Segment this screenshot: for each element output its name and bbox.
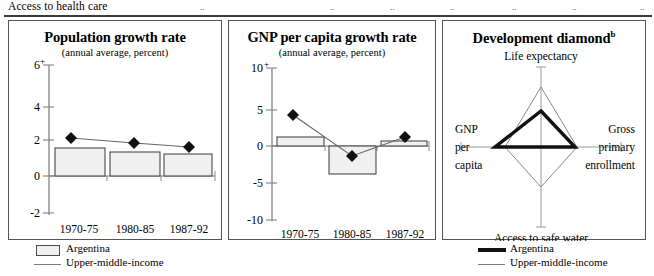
svg-text:-2: -2 xyxy=(30,206,40,220)
svg-text:GNP: GNP xyxy=(455,123,478,135)
legend-swatch-thin-line-icon xyxy=(478,264,505,265)
chart-panel-development-diamond: Development diamondb Life expectancy Acc… xyxy=(442,20,646,240)
svg-text:1987-92: 1987-92 xyxy=(170,223,209,235)
svg-text:Access to safe water: Access to safe water xyxy=(494,232,588,241)
svg-text:per: per xyxy=(455,141,470,154)
legend-label: Argentina xyxy=(66,242,110,254)
gnp-growth-plot: 10 + 5 0 -5 -10 1970-75 1980-85 1987-92 xyxy=(229,21,437,241)
svg-text:enrollment: enrollment xyxy=(585,159,636,171)
chart-panel-gnp-per-capita-growth-rate: GNP per capita growth rate (annual avera… xyxy=(228,20,436,240)
svg-text:primary: primary xyxy=(599,141,636,154)
svg-text:+: + xyxy=(40,56,45,66)
svg-text:Gross: Gross xyxy=(608,123,635,135)
population-growth-plot: 6 + 4 2 0 -2 1970-75 1980-85 1987-92 xyxy=(9,21,223,241)
table-cell-value: .. xyxy=(640,2,645,12)
table-cell-value: .. xyxy=(572,2,577,12)
legend-label: Argentina xyxy=(510,242,554,254)
svg-text:-10: -10 xyxy=(247,213,263,227)
svg-text:1980-85: 1980-85 xyxy=(333,228,372,240)
legend-swatch-thin-line-icon xyxy=(34,264,61,265)
table-horizontal-rule xyxy=(4,15,652,17)
svg-text:5: 5 xyxy=(257,103,263,117)
legend-label: Upper-middle-income xyxy=(510,256,608,268)
development-diamond-plot: Life expectancy Access to safe water GNP… xyxy=(443,21,647,241)
svg-text:-5: -5 xyxy=(253,176,263,190)
svg-text:0: 0 xyxy=(257,139,263,153)
table-cell-value: .. xyxy=(200,2,205,12)
svg-text:4: 4 xyxy=(34,100,40,114)
table-cell-value: .. xyxy=(512,2,517,12)
svg-text:1970-75: 1970-75 xyxy=(281,228,320,240)
table-cell-value: .. xyxy=(390,2,395,12)
svg-text:1987-92: 1987-92 xyxy=(386,228,425,240)
svg-text:2: 2 xyxy=(34,133,40,147)
svg-text:Life expectancy: Life expectancy xyxy=(504,50,578,63)
svg-text:10: 10 xyxy=(251,61,263,75)
svg-text:1980-85: 1980-85 xyxy=(116,223,155,235)
legend-swatch-thick-line-icon xyxy=(478,248,506,252)
table-cell-value: .. xyxy=(450,2,455,12)
svg-text:capita: capita xyxy=(455,159,482,172)
legend-swatch-box-icon xyxy=(36,245,60,256)
chart-panel-population-growth-rate: Population growth rate (annual average, … xyxy=(8,20,222,240)
legend-label: Upper-middle-income xyxy=(66,256,164,268)
table-row-label: Access to health care xyxy=(8,0,107,12)
svg-text:0: 0 xyxy=(34,169,40,183)
svg-text:1970-75: 1970-75 xyxy=(60,223,99,235)
svg-text:+: + xyxy=(264,59,269,69)
table-cell-value: .. xyxy=(330,2,335,12)
